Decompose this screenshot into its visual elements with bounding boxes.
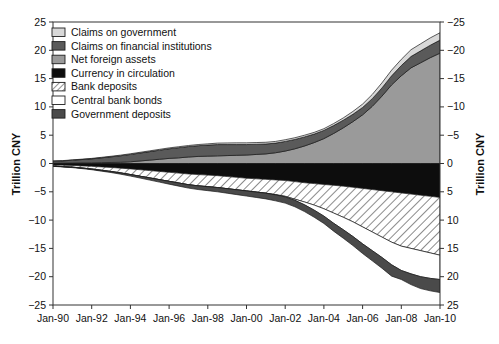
- y-tick-right-label: 25: [447, 299, 459, 311]
- x-tick-label: Jan-04: [308, 312, 340, 324]
- y-tick-right-label: 20: [447, 270, 459, 282]
- x-tick-label: Jan-92: [76, 312, 108, 324]
- y-tick-left-label: 5: [40, 129, 46, 141]
- legend-label-bank-deposits: Bank deposits: [71, 80, 137, 92]
- legend-label-government-deposits: Government deposits: [71, 108, 171, 120]
- legend-swatch-government-deposits: [52, 110, 65, 119]
- y-tick-right-label: −5: [447, 129, 459, 141]
- legend-swatch-currency-in-circulation: [52, 69, 65, 78]
- y-tick-left-label: −25: [28, 299, 46, 311]
- legend-swatch-claims-on-financial-institutions: [52, 42, 65, 51]
- y-axis-left-label: Trillion CNY: [10, 132, 22, 195]
- y-tick-right-label: 0: [447, 157, 453, 169]
- y-tick-right-label: 15: [447, 242, 459, 254]
- x-tick-label: Jan-10: [424, 312, 456, 324]
- y-tick-right-label: −15: [447, 72, 465, 84]
- balance-sheet-area-chart: 2520151050−5−10−15−20−25 −25−20−15−10−50…: [0, 0, 499, 344]
- y-tick-left-label: 10: [34, 100, 46, 112]
- y-tick-left-label: 25: [34, 16, 46, 28]
- x-tick-label: Jan-06: [347, 312, 379, 324]
- y-tick-right-label: −10: [447, 100, 465, 112]
- y-tick-left-label: −20: [28, 270, 46, 282]
- y-tick-right-label: 5: [447, 185, 453, 197]
- x-tick-label: Jan-08: [385, 312, 417, 324]
- y-tick-right-label: −25: [447, 16, 465, 28]
- x-tick-label: Jan-94: [114, 312, 146, 324]
- y-axis-right-label: Trillion CNY: [474, 132, 486, 195]
- legend-label-claims-on-financial-institutions: Claims on financial institutions: [71, 40, 212, 52]
- y-tick-left-label: −5: [34, 185, 46, 197]
- legend-label-central-bank-bonds: Central bank bonds: [71, 94, 162, 106]
- y-tick-left-label: 20: [34, 44, 46, 56]
- legend-swatch-central-bank-bonds: [52, 96, 65, 105]
- x-tick-label: Jan-96: [153, 312, 185, 324]
- legend-swatch-net-foreign-assets: [52, 55, 65, 64]
- y-tick-left-label: −10: [28, 214, 46, 226]
- y-tick-right-label: −20: [447, 44, 465, 56]
- y-tick-right-label: 10: [447, 214, 459, 226]
- legend-label-net-foreign-assets: Net foreign assets: [71, 53, 156, 65]
- legend-label-currency-in-circulation: Currency in circulation: [71, 67, 175, 79]
- legend-swatch-bank-deposits: [52, 82, 65, 91]
- legend-label-claims-on-government: Claims on government: [71, 26, 176, 38]
- x-tick-label: Jan-00: [230, 312, 262, 324]
- x-tick-label: Jan-98: [192, 312, 224, 324]
- y-tick-left-label: −15: [28, 242, 46, 254]
- legend-swatch-claims-on-government: [52, 28, 65, 37]
- chart-container: 2520151050−5−10−15−20−25 −25−20−15−10−50…: [0, 0, 499, 344]
- y-tick-left-label: 0: [40, 157, 46, 169]
- x-tick-label: Jan-02: [269, 312, 301, 324]
- x-tick-label: Jan-90: [37, 312, 69, 324]
- y-tick-left-label: 15: [34, 72, 46, 84]
